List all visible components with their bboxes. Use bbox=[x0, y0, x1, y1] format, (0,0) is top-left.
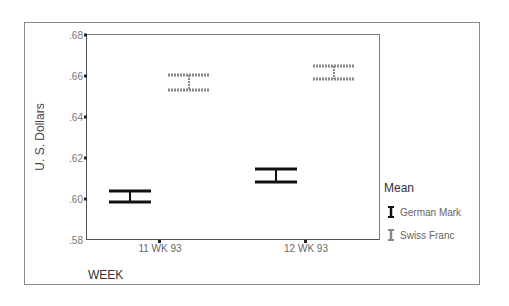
errorbar-icon bbox=[388, 206, 394, 218]
errorbar-gm-12wk bbox=[255, 169, 297, 182]
legend-item-swiss-franc: Swiss Franc bbox=[388, 229, 454, 241]
errorbar-sf-12wk bbox=[313, 66, 355, 79]
legend-item-german-mark: German Mark bbox=[388, 206, 461, 218]
legend-label: German Mark bbox=[400, 207, 461, 218]
error-bars bbox=[0, 0, 509, 306]
errorbar-gm-11wk bbox=[109, 191, 151, 202]
legend-label: Swiss Franc bbox=[400, 230, 454, 241]
series-german-mark bbox=[109, 169, 297, 202]
series-swiss-franc bbox=[168, 66, 355, 90]
legend-title: Mean bbox=[384, 181, 414, 195]
errorbar-icon bbox=[388, 229, 394, 241]
errorbar-sf-11wk bbox=[168, 75, 210, 90]
